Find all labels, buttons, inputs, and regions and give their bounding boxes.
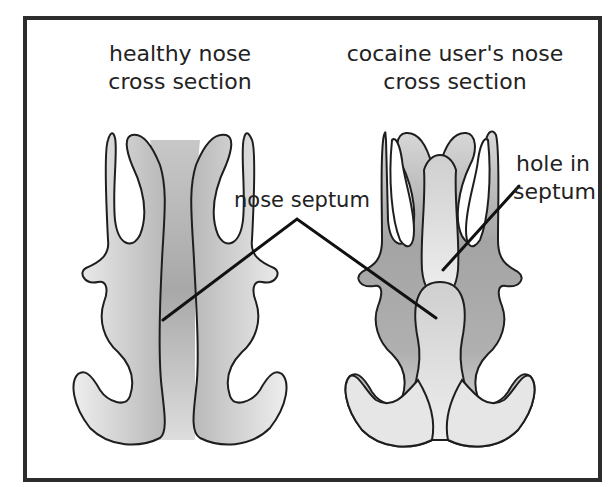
nose-septum-label: nose septum: [234, 186, 370, 214]
title-line: cross section: [340, 68, 570, 96]
cocaine-nose-title: cocaine user's nose cross section: [340, 40, 570, 96]
title-line: healthy nose: [95, 40, 265, 68]
hole-in-septum-label: hole in septum: [513, 150, 593, 206]
title-line: cocaine user's nose: [340, 40, 570, 68]
title-line: cross section: [95, 68, 265, 96]
healthy-nose-title: healthy nose cross section: [95, 40, 265, 96]
label-line: hole in: [513, 150, 593, 178]
healthy-nose-shape: [74, 133, 287, 444]
cocaine-nose-shape: [346, 131, 535, 446]
label-line: septum: [513, 178, 593, 206]
